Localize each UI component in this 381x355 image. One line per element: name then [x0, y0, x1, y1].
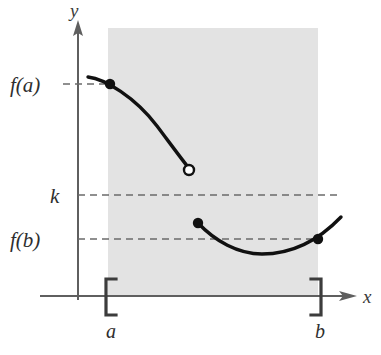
label-k: k	[50, 184, 60, 208]
shaded-interval-region	[108, 28, 318, 296]
point-discontinuity-marker	[184, 165, 194, 175]
label-f-a: f(a)	[10, 73, 40, 97]
point-f-a-marker	[105, 79, 115, 89]
point-f-b-marker	[313, 234, 323, 244]
label-x-axis: x	[362, 286, 372, 307]
label-f-b: f(b)	[10, 228, 40, 252]
label-y-axis: y	[68, 0, 79, 21]
function-graph-figure: f(a) k f(b) a b x y	[0, 0, 381, 355]
label-b: b	[315, 320, 325, 342]
label-a: a	[106, 320, 116, 342]
point-branch2-start-marker	[193, 218, 203, 228]
